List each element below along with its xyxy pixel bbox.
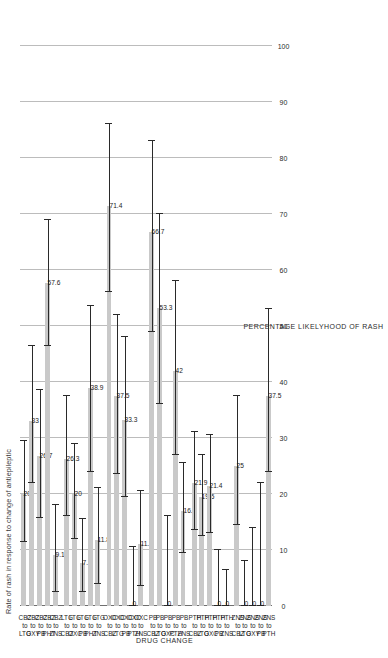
error-bar-cap-low [179, 552, 186, 553]
error-bar-line [252, 528, 253, 606]
error-bar-cap-low [265, 471, 272, 472]
error-bar-cap-high [265, 308, 272, 309]
error-bar-cap-high [257, 482, 264, 483]
bar-row[interactable]: 26.3 [64, 46, 69, 606]
bar-row[interactable]: 20 [21, 46, 26, 606]
bar-row[interactable]: 37.5 [266, 46, 271, 606]
bar-value-label: 0 [133, 600, 137, 607]
error-bar-cap-low [63, 515, 70, 516]
error-bar-cap-low [121, 496, 128, 497]
error-bar-cap-low [148, 331, 155, 332]
bar-row[interactable]: 21.9 [192, 46, 197, 606]
value-axis-tick-label: 90 [275, 99, 293, 106]
error-bar-cap-high [20, 440, 27, 441]
error-bar-line [237, 396, 238, 525]
error-bar-cap-low [172, 454, 179, 455]
error-bar-cap-high [137, 490, 144, 491]
error-bar-cap-low [36, 517, 43, 518]
error-bar-line [218, 550, 219, 606]
bar-row[interactable]: 33 [29, 46, 34, 606]
bar-row[interactable]: 0 [130, 46, 135, 606]
bar-row[interactable]: 0 [242, 46, 247, 606]
bar-row[interactable]: 11.1 [138, 46, 143, 606]
error-bar-cap-high [156, 213, 163, 214]
error-bar-line [82, 519, 83, 592]
error-bar-cap-high [206, 434, 213, 435]
category-axis-title: DRUG CHANGE [125, 637, 205, 644]
bar-row[interactable]: 16.9 [181, 46, 186, 606]
bar-row[interactable]: 25 [234, 46, 239, 606]
error-bar-cap-high [191, 431, 198, 432]
category-tick-label: PTH [258, 630, 280, 637]
error-bar-cap-low [44, 345, 51, 346]
error-bar-cap-high [52, 504, 59, 505]
bar-value-label: 0 [218, 600, 222, 607]
error-bar-line [167, 516, 168, 606]
bar-row[interactable]: 0 [250, 46, 255, 606]
error-bar-cap-high [121, 336, 128, 337]
category-tick-label: ZNS [258, 614, 280, 621]
value-axis-tick-label: 30 [275, 435, 293, 442]
bar-row[interactable]: 0 [223, 46, 228, 606]
error-bar-cap-low [137, 585, 144, 586]
error-bar-cap-low [156, 403, 163, 404]
bar-value-label: 0 [245, 600, 249, 607]
error-bar-cap-low [87, 471, 94, 472]
bar-row[interactable]: 0 [215, 46, 220, 606]
error-bar-cap-high [94, 487, 101, 488]
error-bar-cap-high [79, 518, 86, 519]
bar-row[interactable]: 57.6 [45, 46, 50, 606]
bar-row[interactable]: 33.3 [122, 46, 127, 606]
error-bar-cap-low [233, 524, 240, 525]
bar-row[interactable]: 37.5 [114, 46, 119, 606]
bar-row[interactable]: 38.9 [88, 46, 93, 606]
error-bar-cap-low [79, 591, 86, 592]
error-bar-cap-low [28, 482, 35, 483]
value-axis-tick-label: 100 [275, 43, 293, 50]
error-bar-cap-low [113, 473, 120, 474]
error-bar-cap-high [36, 389, 43, 390]
error-bar-cap-high [105, 123, 112, 124]
error-bar-cap-high [63, 395, 70, 396]
bar-row[interactable]: 66.7 [149, 46, 154, 606]
error-bar-cap-low [52, 591, 59, 592]
error-bar-cap-high [233, 395, 240, 396]
error-bar-line [260, 483, 261, 606]
bar-row[interactable]: 0 [258, 46, 263, 606]
bar-row[interactable]: 7.7 [80, 46, 85, 606]
bar-value-label: 0 [260, 600, 264, 607]
value-axis-tick-label: 60 [275, 267, 293, 274]
bar-row[interactable]: 20 [72, 46, 77, 606]
error-bar-cap-high [222, 569, 229, 570]
bar-row[interactable]: 0 [165, 46, 170, 606]
bar-row[interactable]: 71.4 [107, 46, 112, 606]
error-bar-line [55, 505, 56, 592]
value-axis-tick-label: 10 [275, 547, 293, 554]
error-bar-cap-low [191, 529, 198, 530]
bar-row[interactable]: 42 [173, 46, 178, 606]
bar-row[interactable]: 26.7 [37, 46, 42, 606]
bar-row[interactable]: 21.4 [207, 46, 212, 606]
bar-row[interactable]: 9.1 [53, 46, 58, 606]
bar-value-label: 0 [226, 600, 230, 607]
plot-area: 0102030405060708090100PERCENTAGE LIKELYH… [20, 46, 272, 606]
error-bar-cap-high [71, 443, 78, 444]
error-bar-line [268, 309, 269, 471]
value-axis-title: PERCENTAGE LIKELYHOOD OF RASH [234, 323, 388, 330]
error-bar-cap-high [179, 462, 186, 463]
error-bar-cap-low [198, 535, 205, 536]
bar-value-label: 0 [167, 600, 171, 607]
error-bar-cap-low [105, 291, 112, 292]
error-bar-cap-high [164, 515, 171, 516]
bar-row[interactable]: 11.8 [95, 46, 100, 606]
error-bar-line [32, 346, 33, 483]
bar-row[interactable]: 19.5 [199, 46, 204, 606]
error-bar-cap-high [113, 314, 120, 315]
value-axis-tick-label: 20 [275, 491, 293, 498]
error-bar-cap-high [44, 219, 51, 220]
value-axis-tick-label: 80 [275, 155, 293, 162]
error-bar-cap-high [87, 305, 94, 306]
bar-row[interactable]: 53.3 [157, 46, 162, 606]
value-axis-tick-label: 0 [275, 603, 293, 610]
error-bar-cap-high [148, 140, 155, 141]
